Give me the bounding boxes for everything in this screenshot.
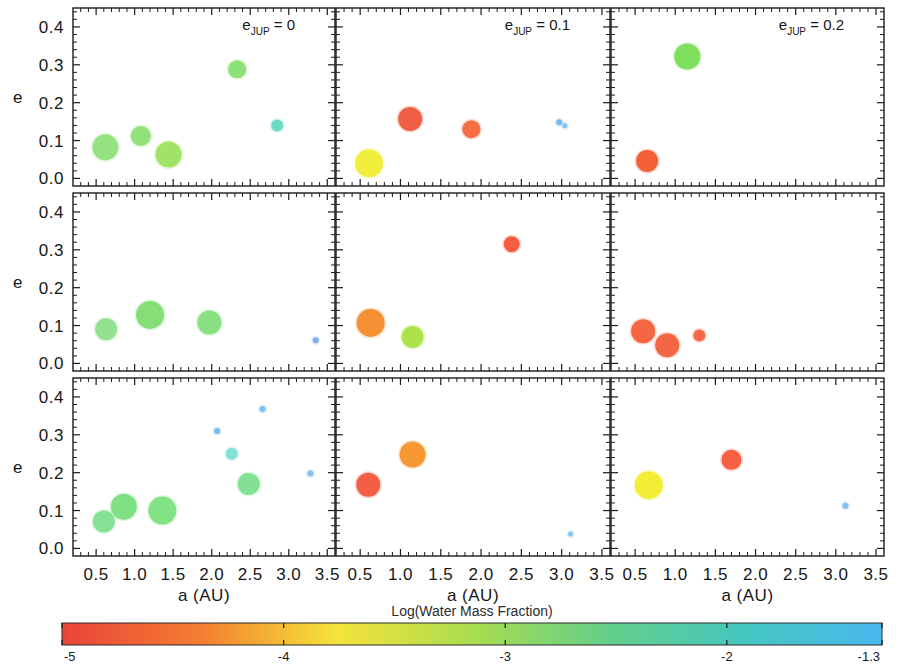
x-tick-label: 3.5 — [589, 565, 614, 584]
colorbar-tick-label: -1.3 — [858, 649, 880, 664]
series-r1-c1 — [355, 235, 521, 350]
x-tick-label: 1.0 — [388, 565, 413, 584]
panel-r2-c1 — [336, 378, 610, 556]
data-point — [136, 301, 164, 329]
data-point — [95, 318, 117, 340]
annotation-rest: = 0 — [270, 16, 295, 33]
series-r0-c0 — [91, 59, 285, 169]
annotation-base: e — [242, 16, 250, 33]
data-point — [635, 471, 663, 499]
panel-annotation-col0: eJUP = 0 — [242, 16, 295, 37]
series-r0-c2 — [635, 42, 702, 174]
colorbar-tick-label: -4 — [278, 649, 290, 664]
panel-r2-c2 — [611, 378, 884, 556]
y-tick-label: 0.0 — [39, 354, 64, 373]
annotation-base: e — [779, 16, 787, 33]
data-point — [313, 337, 319, 343]
y-tick-label: 0.4 — [39, 18, 64, 37]
data-point — [260, 406, 266, 412]
data-point — [156, 142, 182, 168]
colorbar-tick-label: -3 — [499, 649, 511, 664]
series-r2-c0 — [91, 404, 315, 534]
data-point — [131, 126, 151, 146]
data-point — [636, 150, 658, 172]
y-tick-label: 0.3 — [39, 426, 64, 445]
data-point — [674, 43, 700, 69]
x-tick-label: 2.5 — [238, 565, 263, 584]
x-tick-label: 1.5 — [161, 565, 186, 584]
annotation-text: eJUP = 0 — [242, 16, 295, 37]
panel-r1-c0 — [73, 193, 335, 371]
data-point — [842, 503, 848, 509]
data-point — [92, 134, 118, 160]
colorbar-tick-label: -2 — [721, 649, 733, 664]
series-r2-c2 — [633, 448, 850, 510]
data-point — [398, 107, 422, 131]
panel-r1-c2 — [611, 193, 884, 371]
x-tick-label: 3.5 — [863, 565, 888, 584]
data-point — [568, 532, 573, 537]
x-tick-label: 2.5 — [509, 565, 534, 584]
annotation-subscript: JUP — [513, 26, 532, 37]
y-tick-label: 0.2 — [39, 94, 64, 113]
y-tick-label: 0.3 — [39, 56, 64, 75]
annotation-subscript: JUP — [251, 26, 270, 37]
panel-annotation-col1: eJUP = 0.1 — [505, 16, 570, 37]
data-point — [400, 442, 426, 468]
data-point — [238, 473, 260, 495]
figure-root: 0.00.10.20.30.4e0.00.10.20.30.4e0.00.10.… — [0, 0, 900, 666]
data-point — [226, 448, 238, 460]
y-tick-label: 0.3 — [39, 241, 64, 260]
data-point — [631, 319, 655, 343]
series-r0-c1 — [353, 105, 569, 179]
x-tick-label: 2.0 — [468, 565, 493, 584]
annotation-subscript: JUP — [787, 26, 806, 37]
panel-annotation-col2: eJUP = 0.2 — [779, 16, 844, 37]
data-point — [357, 309, 385, 337]
x-tick-label: 1.5 — [703, 565, 728, 584]
data-point — [462, 120, 480, 138]
y-tick-label: 0.2 — [39, 279, 64, 298]
annotation-rest: = 0.2 — [806, 16, 844, 33]
y-tick-label: 0.0 — [39, 169, 64, 188]
colorbar-gradient-bar — [62, 623, 882, 645]
data-point — [228, 60, 246, 78]
panel-frame — [336, 378, 610, 556]
data-point — [214, 428, 220, 434]
x-tick-label: 3.0 — [823, 565, 848, 584]
annotation-base: e — [505, 16, 513, 33]
annotation-text: eJUP = 0.1 — [505, 16, 570, 37]
panel-r1-c1 — [336, 193, 610, 371]
y-axis-label: e — [13, 458, 23, 477]
data-point — [721, 450, 741, 470]
x-tick-label: 2.0 — [743, 565, 768, 584]
x-tick-label: 3.5 — [315, 565, 340, 584]
y-tick-label: 0.4 — [39, 388, 64, 407]
x-axis-label: a (AU) — [178, 586, 230, 605]
panel-frame — [611, 378, 884, 556]
colorbar-tick-label: -5 — [64, 649, 76, 664]
panel-frame — [73, 193, 335, 371]
data-point — [655, 333, 679, 357]
x-axis-label: a (AU) — [721, 586, 773, 605]
x-tick-label: 3.0 — [276, 565, 301, 584]
panel-frame — [611, 193, 884, 371]
scatter-panel-grid: 0.00.10.20.30.4e0.00.10.20.30.4e0.00.10.… — [0, 0, 900, 666]
y-tick-label: 0.4 — [39, 203, 64, 222]
y-tick-label: 0.0 — [39, 539, 64, 558]
data-point — [197, 311, 221, 335]
x-tick-label: 0.5 — [623, 565, 648, 584]
y-tick-label: 0.1 — [39, 502, 64, 521]
y-tick-label: 0.1 — [39, 132, 64, 151]
panel-frame — [336, 193, 610, 371]
data-point — [504, 236, 520, 252]
data-point — [271, 119, 283, 131]
data-point — [148, 497, 176, 525]
data-point — [402, 326, 424, 348]
annotation-text: eJUP = 0.2 — [779, 16, 844, 37]
x-tick-label: 2.5 — [783, 565, 808, 584]
series-r1-c0 — [94, 299, 321, 345]
x-tick-label: 0.5 — [84, 565, 109, 584]
data-point — [111, 494, 137, 520]
data-point — [307, 470, 313, 476]
